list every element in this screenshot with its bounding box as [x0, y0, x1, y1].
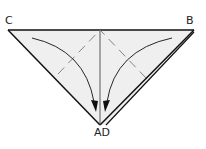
label-ad: AD: [94, 127, 110, 138]
label-c: C: [5, 15, 13, 26]
paper-triangle: [8, 30, 194, 125]
label-b: B: [186, 15, 194, 26]
